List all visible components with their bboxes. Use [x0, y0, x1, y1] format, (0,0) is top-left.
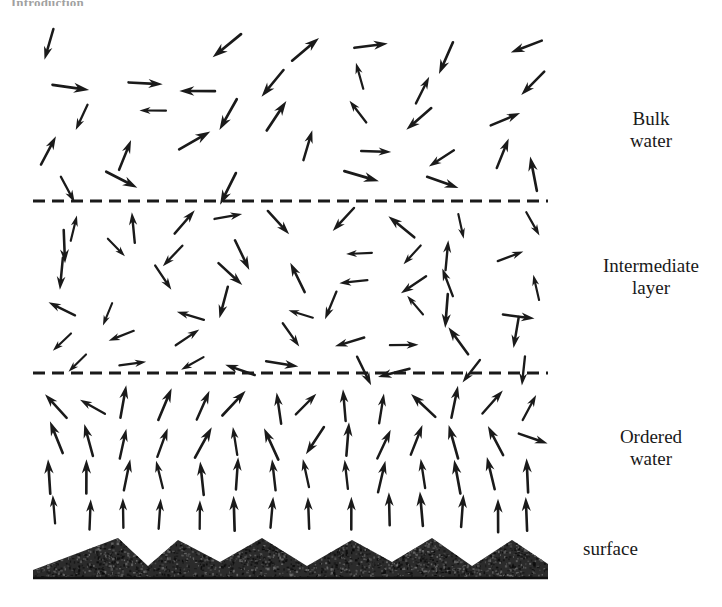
- dipole-arrow-ordered: [123, 459, 131, 490]
- dipole-arrow-intermediate: [49, 302, 75, 315]
- dipole-arrow-ordered: [119, 498, 127, 528]
- dipole-arrow-ordered: [419, 459, 427, 488]
- dipole-arrow-intermediate: [218, 263, 242, 285]
- dipole-arrow-intermediate: [519, 356, 527, 385]
- dipole-arrow-intermediate: [219, 287, 228, 319]
- dipole-arrow-ordered: [156, 498, 164, 528]
- dipole-arrow-ordered: [296, 394, 316, 415]
- dipole-arrow-bulk: [76, 105, 88, 130]
- dipole-arrow-intermediate: [266, 360, 298, 369]
- dipole-arrow-intermediate: [404, 245, 421, 264]
- dipole-arrow-ordered: [197, 391, 210, 420]
- dipole-arrow-bulk: [262, 70, 284, 97]
- dipole-arrow-bulk: [44, 29, 53, 60]
- dipole-arrow-bulk: [439, 42, 453, 74]
- dipole-arrow-bulk: [292, 38, 319, 61]
- dipole-arrow-ordered: [519, 434, 548, 444]
- dipole-arrow-ordered: [80, 400, 105, 414]
- dipole-arrow-intermediate: [235, 240, 249, 270]
- dipole-arrow-bulk: [491, 113, 520, 125]
- dipole-arrow-intermediate: [407, 296, 423, 315]
- dipole-arrow-intermediate: [512, 317, 520, 348]
- dipole-arrow-bulk: [361, 148, 391, 156]
- zone-ordered-water-arrows: [44, 385, 547, 532]
- dipole-arrow-intermediate: [176, 329, 200, 345]
- dipole-arrow-intermediate: [357, 357, 371, 386]
- dipole-arrow-intermediate: [443, 240, 451, 270]
- dipole-arrow-ordered: [486, 457, 495, 489]
- dipole-arrow-intermediate: [268, 211, 289, 234]
- dipole-arrow-intermediate: [177, 311, 204, 319]
- dipole-arrow-ordered: [44, 459, 53, 494]
- dipole-arrow-bulk: [119, 140, 131, 170]
- dipole-arrow-ordered: [120, 429, 128, 459]
- dipole-arrow-ordered: [343, 422, 352, 455]
- zone-dividers: [33, 201, 548, 373]
- dipole-arrow-bulk: [219, 99, 236, 130]
- dipole-arrow-ordered: [229, 496, 238, 531]
- dipole-arrow-ordered: [268, 497, 276, 528]
- figure-water-structure: [0, 0, 722, 607]
- dipole-arrow-intermediate: [60, 230, 69, 263]
- dipole-arrow-ordered: [523, 395, 536, 420]
- dipole-arrow-ordered: [304, 497, 313, 529]
- dipole-arrow-ordered: [411, 425, 423, 455]
- dipole-arrow-ordered: [264, 428, 278, 459]
- dipole-arrow-ordered: [195, 427, 212, 457]
- dipole-arrow-intermediate: [335, 338, 364, 347]
- dipole-arrow-ordered: [50, 421, 63, 453]
- dipole-arrow-ordered: [377, 430, 390, 459]
- dipole-arrow-intermediate: [526, 212, 539, 235]
- dipole-arrow-intermediate: [69, 354, 87, 371]
- dipole-arrow-bulk: [344, 171, 379, 182]
- dipole-arrow-intermediate: [163, 246, 182, 267]
- dipole-arrow-ordered: [119, 385, 128, 417]
- dipole-arrow-intermediate: [325, 292, 336, 320]
- dipole-arrow-bulk: [61, 177, 75, 203]
- dipole-arrow-ordered: [411, 394, 435, 417]
- dipole-arrow-intermediate: [498, 252, 524, 262]
- dipole-arrow-bulk: [521, 72, 544, 95]
- dipole-arrow-intermediate: [462, 360, 479, 382]
- dipole-arrow-ordered: [452, 460, 461, 494]
- dipole-arrow-bulk: [406, 108, 431, 130]
- dipole-arrow-bulk: [41, 136, 56, 164]
- dipole-arrow-ordered: [158, 388, 171, 420]
- dipole-arrow-ordered: [274, 393, 282, 424]
- dipole-arrow-bulk: [53, 83, 90, 93]
- dipole-arrow-ordered: [482, 390, 502, 413]
- dipole-arrow-bulk: [179, 86, 215, 96]
- dipole-arrow-bulk: [213, 34, 241, 57]
- dipole-arrow-bulk: [416, 77, 429, 104]
- dipole-arrow-ordered: [340, 389, 349, 421]
- dipole-arrow-ordered: [342, 460, 350, 489]
- dipole-arrow-intermediate: [339, 278, 367, 286]
- dipole-arrow-bulk: [497, 139, 509, 169]
- dipole-arrow-intermediate: [215, 212, 243, 219]
- dipole-arrow-ordered: [448, 425, 458, 459]
- zone-bulk-water-arrows: [41, 29, 544, 205]
- dipole-arrow-ordered: [269, 459, 277, 490]
- dipole-arrow-ordered: [522, 497, 531, 531]
- dipole-arrow-ordered: [458, 494, 467, 527]
- dipole-arrow-intermediate: [388, 216, 414, 237]
- dipole-arrow-intermediate: [129, 212, 137, 242]
- surface-band: [33, 538, 550, 580]
- dipole-arrow-bulk: [528, 156, 537, 190]
- dipole-arrow-ordered: [50, 495, 58, 523]
- zone-intermediate-layer-arrows: [49, 208, 540, 385]
- dipole-arrow-bulk: [511, 41, 542, 53]
- dipole-arrow-bulk: [427, 177, 458, 188]
- dipole-arrow-ordered: [523, 458, 532, 492]
- dipole-arrow-ordered: [347, 497, 356, 530]
- dipole-arrow-intermediate: [346, 250, 372, 257]
- dipole-arrow-intermediate: [109, 331, 134, 341]
- dipole-arrow-intermediate: [532, 275, 539, 300]
- dipole-arrow-ordered: [302, 459, 310, 487]
- dipole-arrow-bulk: [106, 172, 137, 188]
- dipole-arrow-ordered: [157, 428, 167, 457]
- dipole-arrow-ordered: [233, 457, 242, 489]
- dipole-arrow-ordered: [378, 461, 387, 493]
- dipole-arrow-intermediate: [448, 327, 468, 354]
- dipole-arrow-ordered: [451, 386, 460, 418]
